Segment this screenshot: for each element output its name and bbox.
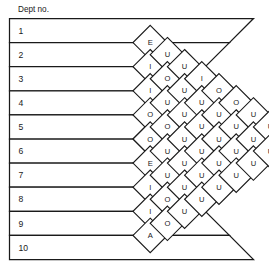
relationship-rating: U	[199, 171, 204, 180]
relationship-rating: E	[148, 38, 153, 47]
relationship-rating: E	[148, 159, 153, 168]
relationship-rating: O	[164, 74, 170, 83]
relationship-rating: U	[199, 98, 204, 107]
relationship-rating: I	[149, 86, 151, 95]
relationship-rating: U	[182, 110, 187, 119]
relationship-rating: U	[182, 159, 187, 168]
department-row[interactable]	[10, 19, 254, 43]
dept-no-header: Dept no.	[18, 5, 49, 14]
department-row[interactable]	[10, 139, 158, 163]
department-row-label: 7	[19, 170, 24, 180]
relationship-rating: U	[165, 171, 170, 180]
relationship-rating: O	[216, 86, 222, 95]
relationship-rating: U	[182, 62, 187, 71]
relationship-rating: U	[165, 98, 170, 107]
department-row-label: 5	[19, 122, 24, 132]
relationship-rating: O	[164, 122, 170, 131]
relationship-rating: U	[216, 110, 221, 119]
relationship-rating: U	[251, 159, 256, 168]
relationship-rating: U	[182, 183, 187, 192]
relationship-rating: O	[147, 110, 153, 119]
relationship-rating: U	[216, 183, 221, 192]
relationship-rating: U	[233, 122, 238, 131]
relationship-rating: U	[216, 159, 221, 168]
relationship-rating: U	[233, 147, 238, 156]
relationship-chart-canvas: Dept no. 12345678910 EIIOOEIIAUOUOUUOOUU…	[0, 0, 269, 280]
relationship-rating: O	[164, 195, 170, 204]
department-row-label: 3	[19, 74, 24, 84]
relationship-rating: U	[251, 110, 256, 119]
department-row-label: 4	[19, 98, 24, 108]
relationship-rating: O	[233, 98, 239, 107]
relationship-rating: U	[251, 135, 256, 144]
relationship-rating: U	[165, 147, 170, 156]
relationship-chart: Dept no. 12345678910 EIIOOEIIAUOUOUUOOUU…	[0, 0, 269, 280]
relationship-rating: U	[199, 122, 204, 131]
relationship-rating: O	[164, 219, 170, 228]
department-row[interactable]	[10, 115, 158, 139]
relationship-rating: U	[216, 135, 221, 144]
relationship-rating: I	[149, 183, 151, 192]
relationship-rating: U	[199, 195, 204, 204]
relationship-rating: I	[201, 74, 203, 83]
relationship-rating: I	[149, 62, 151, 71]
relationship-rating: U	[199, 147, 204, 156]
department-row-label: 8	[19, 194, 24, 204]
department-row-label: 10	[19, 243, 29, 253]
department-row-label: 9	[19, 219, 24, 229]
relationship-rating: U	[182, 135, 187, 144]
relationship-rating: U	[268, 122, 269, 131]
department-row-label: 1	[19, 26, 24, 36]
relationship-rating: I	[149, 207, 151, 216]
relationship-rating: U	[233, 171, 238, 180]
relationship-rating: O	[147, 135, 153, 144]
department-row-label: 2	[19, 50, 24, 60]
department-row-label: 6	[19, 146, 24, 156]
relationship-rating: U	[165, 50, 170, 59]
department-row[interactable]	[10, 235, 254, 259]
relationship-rating: U	[182, 86, 187, 95]
relationship-rating: U	[182, 207, 187, 216]
relationship-rating: U	[268, 147, 269, 156]
